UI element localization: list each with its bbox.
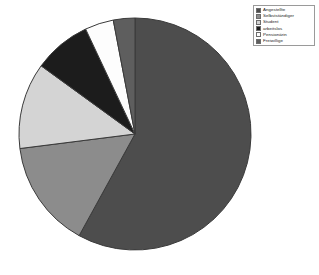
pie-chart-figure: AngestellteSelbstständigerStudentarbeits… xyxy=(0,0,319,275)
legend-color-swatch xyxy=(256,20,261,25)
chart-legend: AngestellteSelbstständigerStudentarbeits… xyxy=(253,5,315,46)
legend-item-label: Selbstständiger xyxy=(263,13,294,19)
pie-slice-group xyxy=(19,18,251,250)
legend-color-swatch xyxy=(256,39,261,44)
legend-color-swatch xyxy=(256,26,261,31)
legend-item-label: Pensionärin xyxy=(263,32,287,38)
legend-color-swatch xyxy=(256,8,261,13)
legend-item[interactable]: Freiwillige xyxy=(255,38,313,44)
legend-item-label: Freiwillige xyxy=(263,38,283,44)
legend-item-label: Student xyxy=(263,19,279,25)
legend-item-label: Angestellte xyxy=(263,7,285,13)
legend-color-swatch xyxy=(256,32,261,37)
legend-item-label: arbeitslos xyxy=(263,26,282,32)
legend-color-swatch xyxy=(256,14,261,19)
